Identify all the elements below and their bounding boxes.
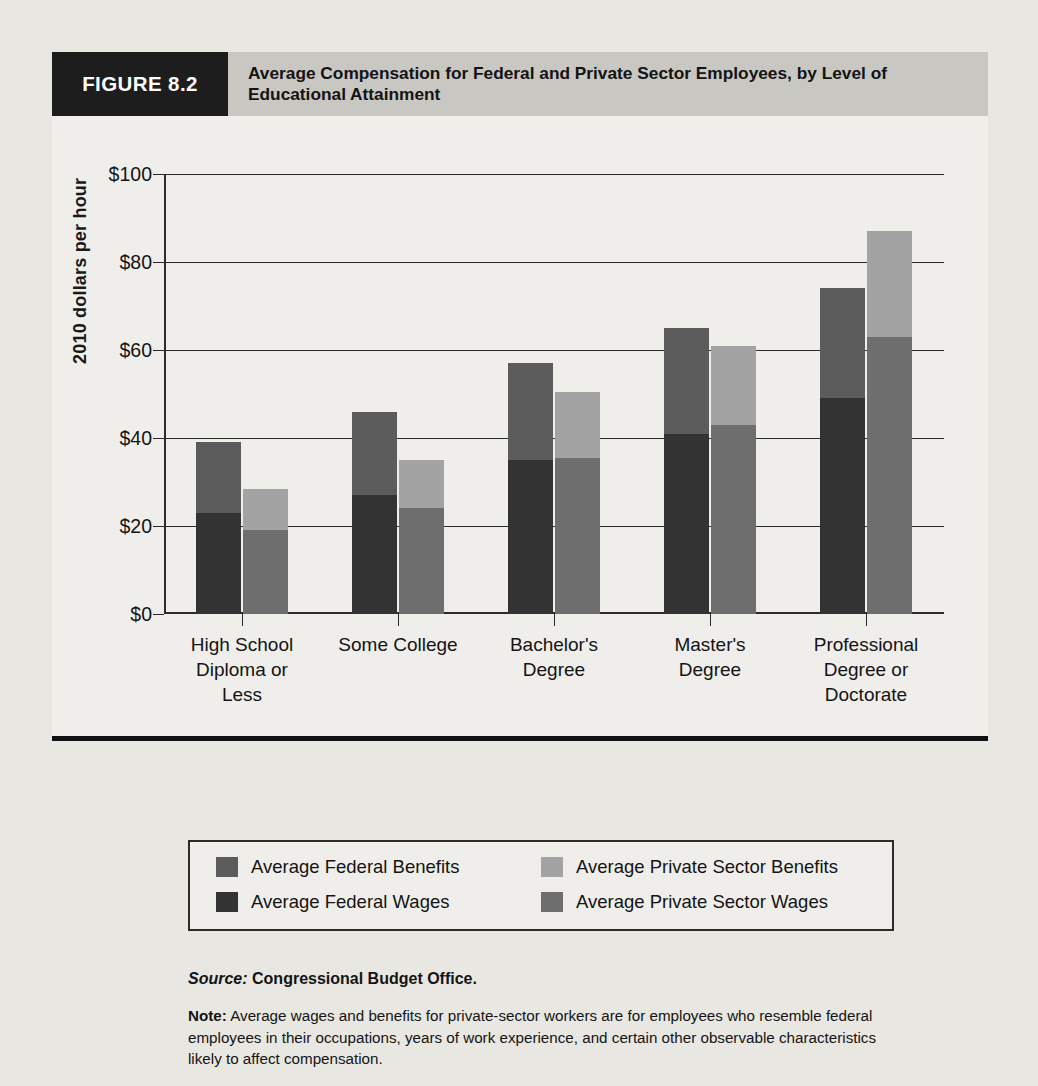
private-bar[interactable] [555, 392, 600, 614]
bar-group [788, 174, 944, 614]
x-axis-category-label: Some College [320, 632, 476, 707]
federal-bar[interactable] [664, 328, 709, 614]
private-bar[interactable] [867, 231, 912, 614]
federal-benefits-segment[interactable] [508, 363, 553, 460]
private-benefits-segment[interactable] [399, 460, 444, 508]
federal-bar[interactable] [820, 288, 865, 614]
bar-group [320, 174, 476, 614]
private-benefits-swatch [541, 857, 563, 877]
private-wages-segment[interactable] [399, 508, 444, 614]
chart-legend: Average Federal Benefits Average Private… [188, 840, 894, 931]
x-axis-category-label: Bachelor'sDegree [476, 632, 632, 707]
chart-area: 2010 dollars per hour $0$20$40$60$80$100… [52, 116, 988, 736]
y-tick-label: $20 [119, 515, 152, 538]
x-axis-category-label: ProfessionalDegree orDoctorate [788, 632, 944, 707]
y-tick-label: $80 [119, 251, 152, 274]
figure-header: FIGURE 8.2 Average Compensation for Fede… [52, 52, 988, 116]
private-wages-segment[interactable] [867, 337, 912, 614]
federal-wages-segment[interactable] [820, 398, 865, 614]
federal-bar[interactable] [508, 363, 553, 614]
federal-wages-segment[interactable] [508, 460, 553, 614]
bar-group [632, 174, 788, 614]
bar-group [164, 174, 320, 614]
x-axis-category-label: Master'sDegree [632, 632, 788, 707]
bar-group [476, 174, 632, 614]
source-text: Congressional Budget Office. [252, 970, 477, 987]
private-wages-swatch [541, 892, 563, 912]
federal-benefits-segment[interactable] [664, 328, 709, 434]
y-tick-label: $100 [109, 163, 152, 186]
legend-label: Average Federal Wages [251, 891, 449, 913]
y-tick-mark [153, 262, 164, 263]
x-axis-category-line: Less [164, 682, 320, 707]
y-tick-mark [153, 614, 164, 615]
x-axis-category-line: Bachelor's [476, 632, 632, 657]
x-axis-category-line: Diploma or [164, 657, 320, 682]
x-axis-category-label: High SchoolDiploma orLess [164, 632, 320, 707]
federal-wages-segment[interactable] [664, 434, 709, 614]
federal-benefits-segment[interactable] [352, 412, 397, 496]
private-benefits-segment[interactable] [711, 346, 756, 425]
private-wages-segment[interactable] [243, 530, 288, 614]
federal-wages-segment[interactable] [196, 513, 241, 614]
figure-title: Average Compensation for Federal and Pri… [228, 52, 988, 116]
x-tick-mark [398, 614, 399, 626]
plot-region: $0$20$40$60$80$100 [164, 174, 944, 614]
x-tick-mark [554, 614, 555, 626]
x-tick-mark [866, 614, 867, 626]
legend-item-private-wages: Average Private Sector Wages [541, 891, 866, 913]
source-label: Source: [188, 970, 248, 987]
private-benefits-segment[interactable] [867, 231, 912, 337]
private-wages-segment[interactable] [711, 425, 756, 614]
y-tick-mark [153, 438, 164, 439]
figure-footer: Source: Congressional Budget Office. Not… [188, 970, 908, 1070]
federal-benefits-segment[interactable] [196, 442, 241, 512]
x-axis-category-line: Degree or [788, 657, 944, 682]
figure-card: FIGURE 8.2 Average Compensation for Fede… [52, 52, 988, 741]
private-bar[interactable] [243, 489, 288, 614]
y-tick-mark [153, 350, 164, 351]
legend-item-federal-benefits: Average Federal Benefits [216, 856, 541, 878]
legend-item-private-benefits: Average Private Sector Benefits [541, 856, 866, 878]
x-axis-category-line: Degree [632, 657, 788, 682]
private-wages-segment[interactable] [555, 458, 600, 614]
legend-label: Average Private Sector Wages [576, 891, 828, 913]
x-axis-category-line: Degree [476, 657, 632, 682]
y-tick-mark [153, 526, 164, 527]
federal-wages-swatch [216, 892, 238, 912]
legend-label: Average Federal Benefits [251, 856, 459, 878]
x-axis-labels: High SchoolDiploma orLessSome CollegeBac… [164, 632, 944, 707]
bar-groups [164, 174, 944, 614]
legend-row-bottom: Average Federal Wages Average Private Se… [216, 891, 866, 913]
legend-label: Average Private Sector Benefits [576, 856, 838, 878]
federal-wages-segment[interactable] [352, 495, 397, 614]
federal-bar[interactable] [196, 442, 241, 614]
federal-bar[interactable] [352, 412, 397, 614]
note-line: Note: Average wages and benefits for pri… [188, 1005, 908, 1070]
x-axis-category-line: Some College [320, 632, 476, 657]
legend-row-top: Average Federal Benefits Average Private… [216, 856, 866, 878]
y-tick-label: $0 [130, 603, 152, 626]
x-axis-category-line: Doctorate [788, 682, 944, 707]
x-axis-category-line: Master's [632, 632, 788, 657]
private-bar[interactable] [711, 346, 756, 614]
x-tick-mark [710, 614, 711, 626]
private-bar[interactable] [399, 460, 444, 614]
note-label: Note: [188, 1007, 227, 1024]
figure-number-tag: FIGURE 8.2 [52, 52, 228, 116]
private-benefits-segment[interactable] [555, 392, 600, 458]
x-axis-category-line: High School [164, 632, 320, 657]
y-tick-mark [153, 174, 164, 175]
federal-benefits-swatch [216, 857, 238, 877]
legend-item-federal-wages: Average Federal Wages [216, 891, 541, 913]
y-tick-label: $60 [119, 339, 152, 362]
y-tick-label: $40 [119, 427, 152, 450]
federal-benefits-segment[interactable] [820, 288, 865, 398]
source-line: Source: Congressional Budget Office. [188, 970, 908, 988]
private-benefits-segment[interactable] [243, 489, 288, 531]
y-axis-label: 2010 dollars per hour [70, 178, 91, 364]
x-axis-category-line: Professional [788, 632, 944, 657]
note-text: Average wages and benefits for private-s… [188, 1007, 876, 1067]
x-tick-mark [242, 614, 243, 626]
